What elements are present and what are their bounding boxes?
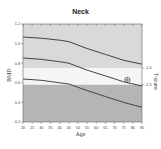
x-tick-label: 40 xyxy=(57,126,61,130)
x-tick-label: 80 xyxy=(131,126,135,130)
x-tick-label: 70 xyxy=(112,126,116,130)
x-tick-label: 30 xyxy=(39,126,43,130)
band-osteoporosis xyxy=(23,85,142,122)
bmd-reference-chart: 2025303540455055606570758085 0.20.40.60.… xyxy=(0,0,161,149)
x-tick-label: 45 xyxy=(67,126,71,130)
t-score-axis-label: T-score xyxy=(152,68,160,88)
t-score-axis-ticks: -1.0-2.5 xyxy=(142,66,152,87)
x-tick-label: 75 xyxy=(122,126,126,130)
x-tick-label: 65 xyxy=(103,126,107,130)
x-tick-label: 20 xyxy=(21,126,25,130)
t-score-tick-label: -1.0 xyxy=(145,66,152,70)
band-normal xyxy=(23,24,142,68)
y-tick-label: 1.2 xyxy=(15,22,20,26)
y-tick-label: 0.2 xyxy=(15,120,20,124)
x-tick-label: 35 xyxy=(48,126,52,130)
reference-bands xyxy=(23,24,142,122)
x-tick-label: 50 xyxy=(76,126,80,130)
x-tick-label: 55 xyxy=(85,126,89,130)
x-tick-label: 60 xyxy=(94,126,98,130)
y-axis-label: BMD xyxy=(2,64,16,84)
x-tick-label: 85 xyxy=(140,126,144,130)
t-score-tick-label: -2.5 xyxy=(145,83,152,87)
y-tick-label: 0.4 xyxy=(15,101,20,105)
y-tick-label: 1.0 xyxy=(15,42,20,46)
x-axis-label: Age xyxy=(0,131,161,137)
x-tick-label: 25 xyxy=(30,126,34,130)
patient-marker-icon xyxy=(125,77,130,82)
